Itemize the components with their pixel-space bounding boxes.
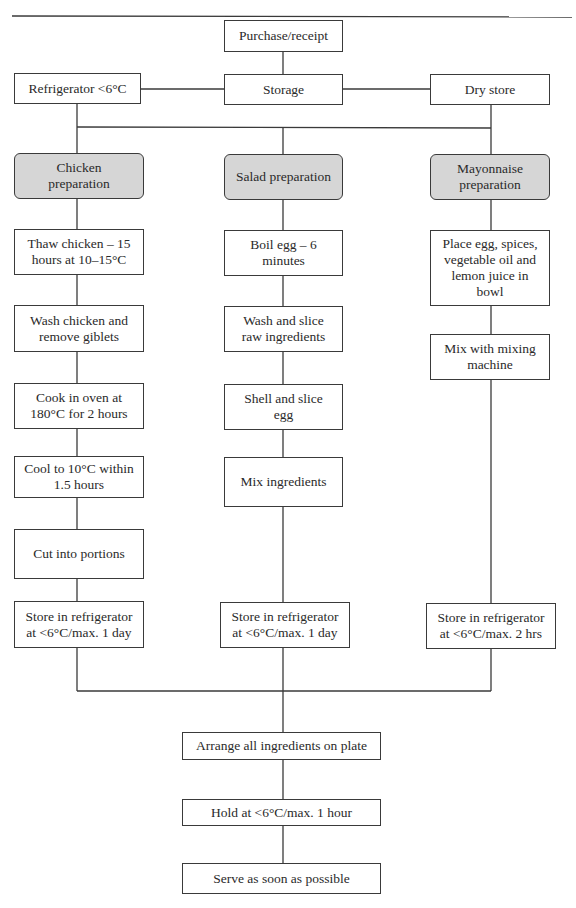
chicken-step-store: Store in refrigerator at <6°C/max. 1 day xyxy=(14,601,144,648)
salad-step-mix: Mix ingredients xyxy=(224,457,343,507)
chicken-step-cook: Cook in oven at 180°C for 2 hours xyxy=(14,383,144,429)
mayonnaise-step-store: Store in refrigerator at <6°C/max. 2 hrs xyxy=(426,603,556,649)
chicken-step-cool: Cool to 10°C within 1.5 hours xyxy=(14,456,144,498)
chicken-preparation-header: Chicken preparation xyxy=(14,153,144,199)
chicken-step-cut: Cut into portions xyxy=(14,529,144,579)
storage-label: Storage xyxy=(263,82,304,98)
mayonnaise-step-mix: Mix with mixing machine xyxy=(430,334,550,380)
chicken-preparation-label: Chicken preparation xyxy=(48,160,109,192)
storage-box: Storage xyxy=(224,74,343,105)
step-label: Cook in oven at 180°C for 2 hours xyxy=(30,390,127,422)
connector-lines xyxy=(0,0,576,908)
step-label: Mix ingredients xyxy=(241,474,327,490)
step-label: Cut into portions xyxy=(33,546,125,562)
salad-preparation-label: Salad preparation xyxy=(236,169,331,185)
refrigerator-box: Refrigerator <6°C xyxy=(14,73,141,104)
step-label: Store in refrigerator at <6°C/max. 1 day xyxy=(231,609,338,641)
step-label: Boil egg – 6 minutes xyxy=(250,237,316,269)
final-step-hold: Hold at <6°C/max. 1 hour xyxy=(182,799,381,826)
final-step-arrange: Arrange all ingredients on plate xyxy=(182,732,381,760)
page-rule xyxy=(12,16,572,17)
mayonnaise-preparation-header: Mayonnaise preparation xyxy=(430,154,550,200)
salad-step-boil-egg: Boil egg – 6 minutes xyxy=(224,230,343,276)
step-label: Cool to 10°C within 1.5 hours xyxy=(24,461,133,493)
purchase-receipt-label: Purchase/receipt xyxy=(239,28,328,44)
step-label: Wash chicken and remove giblets xyxy=(30,313,128,345)
purchase-receipt-box: Purchase/receipt xyxy=(224,20,343,52)
step-label: Arrange all ingredients on plate xyxy=(196,738,367,754)
step-label: Store in refrigerator at <6°C/max. 1 day xyxy=(25,609,132,641)
dry-store-label: Dry store xyxy=(465,82,516,98)
final-step-serve: Serve as soon as possible xyxy=(182,863,381,894)
step-label: Hold at <6°C/max. 1 hour xyxy=(211,805,352,821)
step-label: Shell and slice egg xyxy=(244,391,323,423)
salad-step-wash-slice: Wash and slice raw ingredients xyxy=(224,306,343,352)
step-label: Thaw chicken – 15 hours at 10–15°C xyxy=(27,236,130,268)
refrigerator-label: Refrigerator <6°C xyxy=(28,81,126,97)
step-label: Place egg, spices, vegetable oil and lem… xyxy=(442,236,537,300)
step-label: Wash and slice raw ingredients xyxy=(242,313,326,345)
chicken-step-wash: Wash chicken and remove giblets xyxy=(14,305,144,352)
mayonnaise-step-place: Place egg, spices, vegetable oil and lem… xyxy=(430,230,550,306)
step-label: Mix with mixing machine xyxy=(444,341,536,373)
salad-step-shell-egg: Shell and slice egg xyxy=(224,384,343,430)
step-label: Serve as soon as possible xyxy=(213,871,349,887)
dry-store-box: Dry store xyxy=(430,74,550,105)
mayonnaise-preparation-label: Mayonnaise preparation xyxy=(457,161,523,193)
salad-preparation-header: Salad preparation xyxy=(224,154,343,200)
salad-step-store: Store in refrigerator at <6°C/max. 1 day xyxy=(220,602,350,648)
step-label: Store in refrigerator at <6°C/max. 2 hrs xyxy=(437,610,544,642)
chicken-step-thaw: Thaw chicken – 15 hours at 10–15°C xyxy=(14,229,144,275)
